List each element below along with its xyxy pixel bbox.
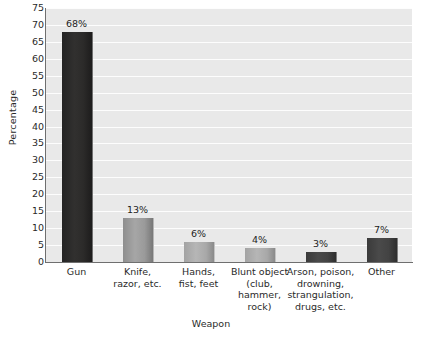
y-axis-title: Percentage [7,70,18,166]
y-axis-tick-label: 20 [20,189,44,199]
y-axis-tick-label: 75 [20,3,44,13]
y-axis-tick-label: 25 [20,172,44,182]
y-axis-tick-label: 15 [20,206,44,216]
gridline [46,8,412,9]
y-axis-tick-label: 10 [20,223,44,233]
gridline [46,160,412,161]
gridline [46,245,412,246]
x-axis-category-line: strangulation, [283,289,359,301]
bar [184,242,215,262]
y-axis-tick-label: 40 [20,122,44,132]
gridline [46,143,412,144]
bar-value-label: 7% [357,225,407,235]
gridline [46,110,412,111]
gridline [46,76,412,77]
bar [245,248,276,262]
bar-value-label: 68% [52,19,102,29]
gridline [46,211,412,212]
bar-chart: Percentage 05101520253035404550556065707… [0,0,422,344]
bar [367,238,398,262]
y-axis-tick-label: 50 [20,88,44,98]
gridline [46,59,412,60]
x-axis-category-line: Other [344,266,420,278]
y-axis-tick-labels: 051015202530354045505560657075 [20,0,44,344]
x-axis-category-line: drowning, [283,278,359,290]
y-axis-tick-label: 60 [20,54,44,64]
gridline [46,194,412,195]
y-axis-tick-label: 5 [20,240,44,250]
x-axis-category-line: drugs, etc. [283,301,359,313]
y-axis-tick-label: 35 [20,138,44,148]
bar-value-label: 4% [235,235,285,245]
y-axis-tick-label: 65 [20,37,44,47]
bar-value-label: 3% [296,239,346,249]
gridline [46,127,412,128]
y-axis-tick-label: 45 [20,105,44,115]
x-axis-line [45,262,413,263]
bar [62,32,93,262]
x-axis-title: Weapon [0,318,422,329]
y-axis-tick-label: 55 [20,71,44,81]
gridline [46,177,412,178]
bar [306,252,337,262]
plot-area [46,8,412,262]
x-axis-category-label: Other [344,266,420,278]
bar-value-label: 6% [174,229,224,239]
y-axis-tick-label: 70 [20,20,44,30]
y-axis-tick-label: 30 [20,155,44,165]
bar [123,218,154,262]
gridline [46,42,412,43]
bar-value-label: 13% [113,205,163,215]
gridline [46,93,412,94]
